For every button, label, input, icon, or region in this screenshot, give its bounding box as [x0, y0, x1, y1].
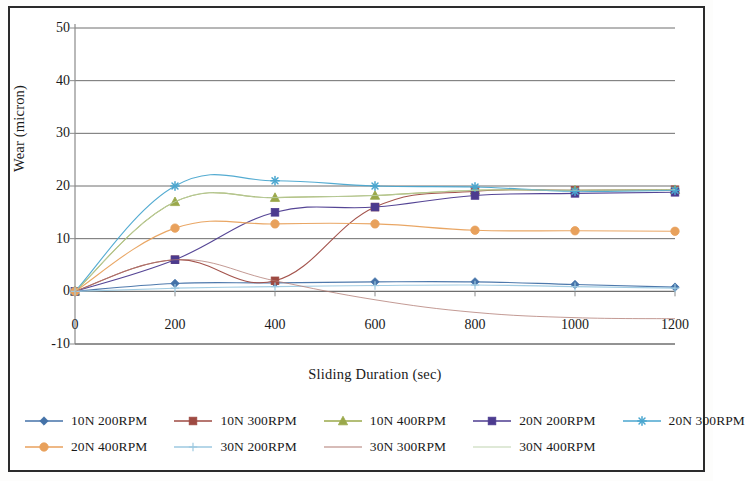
x-axis-title: Sliding Duration (sec): [75, 366, 675, 383]
legend-swatch-icon: [173, 414, 213, 428]
legend-item-30n-400rpm[interactable]: 30N 400RPM: [472, 439, 595, 455]
data-point-marker: [371, 182, 379, 190]
legend-item-30n-200rpm[interactable]: 30N 200RPM: [173, 439, 296, 455]
y-tick-label: 10: [26, 232, 70, 246]
legend-label: 30N 400RPM: [519, 439, 595, 455]
data-point-marker: [40, 443, 48, 451]
data-point-marker: [170, 197, 179, 206]
plot-area: [75, 28, 675, 344]
legend-swatch-icon: [24, 440, 64, 454]
data-point-marker: [40, 417, 48, 425]
data-point-marker: [571, 187, 579, 195]
x-tick-label: 1000: [545, 318, 605, 332]
legend-swatch-icon: [472, 414, 512, 428]
data-point-marker: [671, 186, 679, 194]
data-point-marker: [189, 443, 197, 451]
legend-swatch-icon: [173, 440, 213, 454]
y-tick-label: 40: [26, 74, 70, 88]
y-tick-label: -10: [26, 337, 70, 351]
legend-item-30n-300rpm[interactable]: 30N 300RPM: [323, 439, 446, 455]
legend-item-10n-300rpm[interactable]: 10N 300RPM: [173, 413, 296, 429]
y-tick-label: 20: [26, 179, 70, 193]
x-tick-label: 1200: [645, 318, 705, 332]
legend-label: 30N 200RPM: [220, 439, 296, 455]
legend-item-20n-300rpm[interactable]: 20N 300RPM: [622, 413, 745, 429]
legend-swatch-icon: [622, 414, 662, 428]
legend-swatch-icon: [323, 414, 363, 428]
legend-item-20n-200rpm[interactable]: 20N 200RPM: [472, 413, 595, 429]
data-point-marker: [571, 227, 579, 235]
legend-row: 10N 200RPM10N 300RPM10N 400RPM20N 200RPM…: [24, 408, 684, 434]
data-point-marker: [271, 220, 279, 228]
legend-label: 10N 400RPM: [370, 413, 446, 429]
data-point-marker: [671, 227, 679, 235]
legend-item-20n-400rpm[interactable]: 20N 400RPM: [24, 439, 147, 455]
data-point-marker: [171, 182, 179, 190]
legend-label: 10N 300RPM: [220, 413, 296, 429]
legend-label: 20N 300RPM: [669, 413, 745, 429]
legend-swatch-icon: [323, 440, 363, 454]
data-point-marker: [171, 224, 179, 232]
x-tick-label: 0: [45, 318, 105, 332]
x-tick-label: 800: [445, 318, 505, 332]
data-point-marker: [488, 417, 496, 425]
data-point-marker: [371, 220, 379, 228]
data-point-marker: [471, 192, 479, 200]
legend-item-10n-400rpm[interactable]: 10N 400RPM: [323, 413, 446, 429]
legend-item-10n-200rpm[interactable]: 10N 200RPM: [24, 413, 147, 429]
data-point-marker: [637, 417, 645, 425]
x-tick-label: 400: [245, 318, 305, 332]
y-axis-tick-labels: 50403020100-10: [18, 28, 70, 344]
chart-legend: 10N 200RPM10N 300RPM10N 400RPM20N 200RPM…: [24, 408, 684, 460]
x-tick-label: 200: [145, 318, 205, 332]
legend-swatch-icon: [24, 414, 64, 428]
data-point-marker: [271, 209, 279, 217]
legend-label: 20N 200RPM: [519, 413, 595, 429]
data-point-marker: [190, 417, 198, 425]
legend-label: 30N 300RPM: [370, 439, 446, 455]
x-tick-label: 600: [345, 318, 405, 332]
x-axis-tick-labels: 020040060080010001200: [75, 318, 675, 340]
y-tick-label: 50: [26, 21, 70, 35]
data-point-marker: [471, 226, 479, 234]
legend-label: 10N 200RPM: [71, 413, 147, 429]
legend-row: 20N 400RPM30N 200RPM30N 300RPM30N 400RPM: [24, 434, 684, 460]
legend-label: 20N 400RPM: [71, 439, 147, 455]
y-tick-label: 0: [26, 284, 70, 298]
y-tick-label: 30: [26, 126, 70, 140]
plot-svg: [75, 28, 675, 344]
legend-swatch-icon: [472, 440, 512, 454]
data-point-marker: [371, 203, 379, 211]
data-point-marker: [271, 177, 279, 185]
